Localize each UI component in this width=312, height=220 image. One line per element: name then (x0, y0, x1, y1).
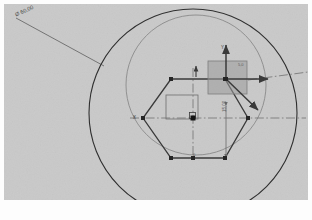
vertex-marker[interactable] (223, 156, 227, 160)
vertex-marker[interactable] (224, 77, 228, 81)
vertex-marker[interactable] (169, 156, 173, 160)
cad-drawing-canvas[interactable] (4, 4, 308, 200)
axis-x-label: X (133, 115, 136, 120)
origin-dot-icon (191, 116, 196, 121)
origin-label: 0 (193, 152, 195, 157)
screenshot-root: Ø 60,00 X Y 15,00 5,0 0 (0, 0, 312, 220)
paper-grain-overlay (4, 4, 308, 200)
vertex-marker[interactable] (246, 116, 250, 120)
axis-y-label: Y (221, 45, 224, 50)
vertical-dimension-label: 15,00 (222, 101, 227, 112)
vertex-marker[interactable] (169, 77, 173, 81)
secondary-dimension-label: 5,0 (238, 62, 244, 67)
vertex-marker[interactable] (141, 116, 145, 120)
